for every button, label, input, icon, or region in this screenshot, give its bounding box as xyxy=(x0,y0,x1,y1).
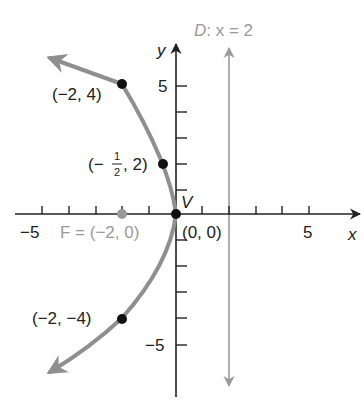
x-axis-label: x xyxy=(347,225,357,244)
point-neg2-neg4 xyxy=(117,314,127,324)
y-axis xyxy=(176,44,187,397)
svg-text:1: 1 xyxy=(114,150,120,162)
directrix-label: D: x = 2 xyxy=(194,21,253,40)
focus-point xyxy=(117,209,127,219)
y-tick-label-neg5: −5 xyxy=(145,336,164,355)
point-neg2-4 xyxy=(117,79,127,89)
x-tick-label-5: 5 xyxy=(303,223,312,242)
vertex-label: V xyxy=(181,193,194,212)
vertex-point xyxy=(171,209,181,219)
point-label-neg-half-2: (− 1 2 , 2) xyxy=(88,150,148,178)
svg-text:2: 2 xyxy=(114,166,120,178)
parabola-diagram: y x 5 −5 −5 5 D: x = 2 F = (−2, 0) V (0,… xyxy=(0,0,364,400)
focus-label: F = (−2, 0) xyxy=(60,223,139,242)
y-axis-label: y xyxy=(156,41,167,60)
x-tick-label-neg5: −5 xyxy=(20,223,39,242)
point-label-neg2-4: (−2, 4) xyxy=(52,85,102,104)
y-tick-label-5: 5 xyxy=(158,77,167,96)
point-neg-half-2 xyxy=(158,159,168,169)
svg-text:(−: (− xyxy=(88,155,104,174)
point-label-neg2-neg4: (−2, −4) xyxy=(32,309,92,328)
svg-text:, 2): , 2) xyxy=(123,155,148,174)
vertex-coord-label: (0, 0) xyxy=(182,223,222,242)
